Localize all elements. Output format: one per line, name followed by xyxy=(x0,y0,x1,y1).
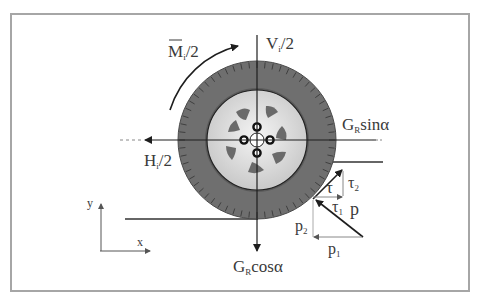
axis-y-label: y xyxy=(87,196,93,210)
gravity-sin-label: GRsinα xyxy=(342,115,389,135)
moment-label: Mi/2 xyxy=(168,42,199,62)
tau-label: τ xyxy=(326,178,333,197)
vertical-force-label: Vi/2 xyxy=(266,34,294,54)
wheel-force-diagram: Mi/2 Vi/2 Hi/2 GRsinα GRcosα τ τ2 τ1 p p… xyxy=(0,0,480,301)
horizontal-force-label: Hi/2 xyxy=(144,151,172,171)
p-label: p xyxy=(350,199,359,219)
p1-label: p1 xyxy=(328,240,341,259)
p2-label: p2 xyxy=(295,217,308,236)
tau2-label: τ2 xyxy=(348,174,359,193)
axis-x-label: x xyxy=(137,235,143,249)
gravity-cos-label: GRcosα xyxy=(233,257,283,277)
tau1-label: τ1 xyxy=(332,198,343,217)
